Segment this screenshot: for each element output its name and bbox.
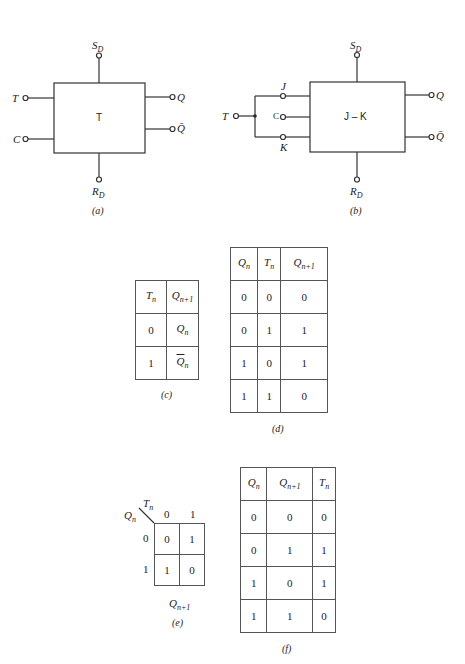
kmap-output-label: Qn+1 [169,598,190,612]
q-bar-output-label-b: Q̄ [436,131,444,142]
kmap-col-header: 0 [164,509,170,520]
jk-block-label: J – K [344,112,367,122]
caption-f: (f) [282,644,291,654]
cell: 0 [258,281,281,314]
cell: 0 [313,600,336,633]
cell: 1 [231,380,258,413]
cell: 0 [136,314,167,347]
kmap-col-var: Tn [143,498,153,512]
kmap-e-grid: 01 10 [154,523,205,586]
cell: 1 [313,534,336,567]
kmap-row-header: 0 [143,533,149,544]
cell: 1 [281,347,328,380]
kmap-cell: 1 [180,524,205,555]
clock-input-label-a: C [13,134,20,145]
kmap-cell: 1 [155,555,180,586]
header: Tn [258,248,281,281]
cell: 0 [281,380,328,413]
cell: 1 [241,600,267,633]
cell: 1 [241,567,267,600]
reset-label-a: RD [92,186,105,200]
kmap-cell: 0 [180,555,205,586]
kmap-col-header: 1 [190,509,196,520]
header: Tn [313,468,336,501]
cell: 1 [136,347,167,380]
caption-c: (c) [161,390,172,400]
cell: 1 [258,314,281,347]
cell: 1 [313,567,336,600]
cell-qn: Qn [167,314,199,347]
caption-e: (e) [172,618,183,628]
q-output-label-a: Q [177,92,185,103]
cell: 1 [267,600,313,633]
reset-label-b: RD [350,186,363,200]
header: Qn+1 [281,248,328,281]
cell: 0 [281,281,328,314]
c-pin-label: C [273,112,279,121]
cell-qn-complement: Qn [167,347,199,380]
kmap-cell: 0 [155,524,180,555]
cell: 1 [258,380,281,413]
header-qn1: Qn+1 [167,281,199,314]
cell: 1 [267,534,313,567]
t-input-label-a: T [12,93,18,104]
table-c-characteristic: Tn Qn+1 0 Qn 1 Qn [135,280,199,380]
cell: 0 [258,347,281,380]
cell: 0 [267,567,313,600]
q-bar-output-label-a: Q̄ [177,123,185,134]
kmap-row-var: Qn [124,510,136,524]
kmap-row-header: 1 [143,564,149,575]
table-d-truth-table: Qn Tn Qn+1 000 011 101 110 [230,247,328,413]
header: Qn [231,248,258,281]
header: Qn [241,468,267,501]
cell: 0 [231,314,258,347]
q-output-label-b: Q [436,90,444,101]
set-label-b: SD [350,40,361,54]
t-block-label: T [96,113,102,123]
cell: 0 [241,534,267,567]
table-f-excitation-table: Qn Qn+1 Tn 000 011 101 110 [240,467,336,633]
caption-d: (d) [272,424,284,434]
cell: 0 [267,501,313,534]
caption-b: (b) [350,206,362,216]
j-pin-label: J [281,81,286,92]
cell: 0 [313,501,336,534]
k-pin-label: K [280,142,287,153]
cell: 1 [231,347,258,380]
header: Qn+1 [267,468,313,501]
header-tn: Tn [136,281,167,314]
caption-a: (a) [92,206,104,216]
cell: 0 [241,501,267,534]
cell: 1 [281,314,328,347]
set-label-a: SD [92,40,103,54]
t-input-label-b: T [222,111,228,122]
cell: 0 [231,281,258,314]
